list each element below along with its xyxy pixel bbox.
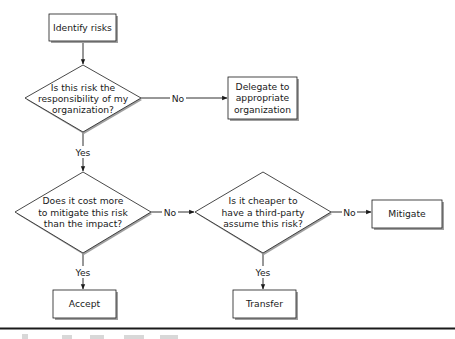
node-label: Delegate to [236,81,290,92]
node-identify-risks: Identify risks [49,14,118,43]
node-cheaper-decision: Is it cheaper to have a third-party assu… [195,172,332,255]
edge-label-no: No [172,93,185,104]
node-label: Mitigate [388,208,426,219]
node-label: appropriate [236,92,290,103]
node-label: than the impact? [44,218,122,229]
edge-label-yes: Yes [75,147,91,158]
node-delegate: Delegate to appropriate organization [228,77,299,121]
node-label: organization? [52,104,114,115]
node-label: Identify risks [53,22,112,33]
node-label: have a third-party [221,207,305,218]
faint-glyph [90,335,104,339]
node-label: to mitigate this risk [38,207,128,218]
node-label: Accept [69,298,101,309]
node-label: Is it cheaper to [228,195,297,206]
node-responsibility-decision: Is this risk the responsibility of my or… [25,65,142,134]
edge-label-no: No [164,207,177,218]
node-label: assume this risk? [223,218,303,229]
faint-glyph [124,335,144,339]
node-label: Transfer [245,298,283,309]
edge-label-no: No [343,207,356,218]
node-label: Is this risk the [51,82,116,93]
risk-flowchart: No Yes No Yes No Yes Identify risks Is t… [0,0,455,339]
faint-text-below-rule [22,334,178,339]
node-label: organization [234,104,291,115]
node-label: responsibility of my [38,93,129,104]
faint-glyph [160,335,178,339]
node-cost-decision: Does it cost more to mitigate this risk … [15,172,152,255]
node-accept: Accept [53,290,118,320]
edge-label-yes: Yes [75,267,91,278]
node-mitigate: Mitigate [372,200,444,230]
node-transfer: Transfer [233,290,298,320]
faint-glyph [22,334,28,339]
faint-glyph [62,335,72,339]
connectors [83,42,371,289]
node-label: Does it cost more [43,195,124,206]
edge-label-yes: Yes [255,267,271,278]
